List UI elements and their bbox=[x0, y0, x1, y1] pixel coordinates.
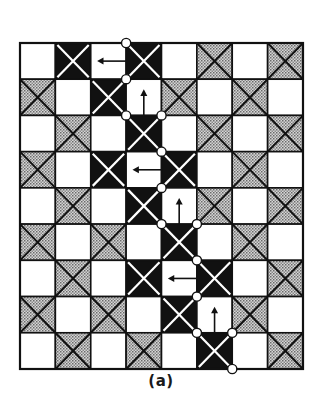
cell-5-2 bbox=[91, 224, 126, 260]
cell-3-1 bbox=[55, 152, 90, 188]
cell-5-3 bbox=[126, 224, 161, 260]
path-node-circle-icon bbox=[192, 220, 201, 229]
cell-4-1 bbox=[55, 188, 90, 224]
cell-5-6 bbox=[232, 224, 267, 260]
cell-5-5 bbox=[197, 224, 232, 260]
cell-8-0 bbox=[20, 333, 55, 369]
cell-7-3 bbox=[126, 297, 161, 333]
cell-7-4 bbox=[162, 297, 197, 333]
checkerboard-lattice bbox=[0, 0, 322, 411]
path-node-circle-icon bbox=[157, 111, 166, 120]
cell-5-0 bbox=[20, 224, 55, 260]
lattice-figure: (a) bbox=[0, 0, 322, 411]
cell-8-6 bbox=[232, 333, 267, 369]
figure-caption: (a) bbox=[0, 372, 322, 390]
cell-7-2 bbox=[91, 297, 126, 333]
cell-0-1 bbox=[55, 43, 90, 79]
cell-6-1 bbox=[55, 260, 90, 296]
cell-1-2 bbox=[91, 79, 126, 115]
path-node-circle-icon bbox=[122, 75, 131, 84]
cell-7-6 bbox=[232, 297, 267, 333]
cell-0-6 bbox=[232, 43, 267, 79]
cell-8-5 bbox=[197, 333, 232, 369]
cell-7-1 bbox=[55, 297, 90, 333]
path-node-circle-icon bbox=[122, 111, 131, 120]
path-node-circle-icon bbox=[192, 292, 201, 301]
cell-2-3 bbox=[126, 115, 161, 151]
cell-7-5 bbox=[197, 297, 232, 333]
cell-5-1 bbox=[55, 224, 90, 260]
cell-5-4 bbox=[162, 224, 197, 260]
cell-2-4 bbox=[162, 115, 197, 151]
cell-1-6 bbox=[232, 79, 267, 115]
cell-3-7 bbox=[268, 152, 303, 188]
cell-0-4 bbox=[162, 43, 197, 79]
cell-6-3 bbox=[126, 260, 161, 296]
cell-1-0 bbox=[20, 79, 55, 115]
cell-1-3 bbox=[126, 79, 161, 115]
cell-2-0 bbox=[20, 115, 55, 151]
path-node-circle-icon bbox=[228, 328, 237, 337]
cell-4-3 bbox=[126, 188, 161, 224]
cell-8-1 bbox=[55, 333, 90, 369]
cell-6-4 bbox=[162, 260, 197, 296]
cell-3-3 bbox=[126, 152, 161, 188]
cell-0-5 bbox=[197, 43, 232, 79]
cell-6-5 bbox=[197, 260, 232, 296]
cell-8-2 bbox=[91, 333, 126, 369]
path-node-circle-icon bbox=[122, 38, 131, 47]
cell-2-7 bbox=[268, 115, 303, 151]
cell-3-2 bbox=[91, 152, 126, 188]
cell-4-2 bbox=[91, 188, 126, 224]
path-node-circle-icon bbox=[192, 256, 201, 265]
cell-4-5 bbox=[197, 188, 232, 224]
cells-layer bbox=[20, 43, 303, 369]
cell-1-1 bbox=[55, 79, 90, 115]
cell-2-1 bbox=[55, 115, 90, 151]
cell-8-4 bbox=[162, 333, 197, 369]
cell-4-6 bbox=[232, 188, 267, 224]
cell-2-5 bbox=[197, 115, 232, 151]
cell-6-7 bbox=[268, 260, 303, 296]
cell-3-0 bbox=[20, 152, 55, 188]
path-node-circle-icon bbox=[157, 220, 166, 229]
cell-4-4 bbox=[162, 188, 197, 224]
cell-0-7 bbox=[268, 43, 303, 79]
cell-6-2 bbox=[91, 260, 126, 296]
cell-4-0 bbox=[20, 188, 55, 224]
cell-0-0 bbox=[20, 43, 55, 79]
cell-3-6 bbox=[232, 152, 267, 188]
cell-8-3 bbox=[126, 333, 161, 369]
path-node-circle-icon bbox=[157, 183, 166, 192]
cell-0-3 bbox=[126, 43, 161, 79]
cell-6-6 bbox=[232, 260, 267, 296]
cell-1-7 bbox=[268, 79, 303, 115]
cell-7-7 bbox=[268, 297, 303, 333]
cell-7-0 bbox=[20, 297, 55, 333]
cell-8-7 bbox=[268, 333, 303, 369]
path-node-circle-icon bbox=[192, 328, 201, 337]
cell-1-4 bbox=[162, 79, 197, 115]
path-node-circle-icon bbox=[157, 147, 166, 156]
cell-2-6 bbox=[232, 115, 267, 151]
cell-3-5 bbox=[197, 152, 232, 188]
cell-6-0 bbox=[20, 260, 55, 296]
cell-4-7 bbox=[268, 188, 303, 224]
cell-0-2 bbox=[91, 43, 126, 79]
cell-1-5 bbox=[197, 79, 232, 115]
cell-2-2 bbox=[91, 115, 126, 151]
cell-3-4 bbox=[162, 152, 197, 188]
cell-5-7 bbox=[268, 224, 303, 260]
